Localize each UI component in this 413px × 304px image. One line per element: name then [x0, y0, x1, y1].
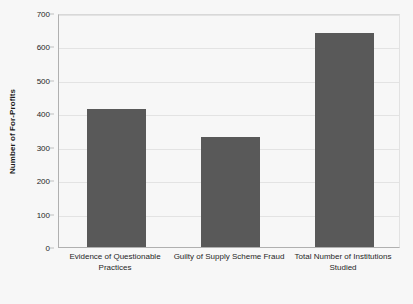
y-axis-tick-label: 500: [37, 76, 50, 85]
y-axis-title-text: Number of For-Profits: [9, 88, 18, 173]
y-axis-tick-mark: [50, 14, 54, 15]
y-axis-tick-label: 400: [37, 110, 50, 119]
y-axis-tick-mark: [50, 248, 54, 249]
bar: [87, 109, 146, 247]
x-axis-category-label: Guilty of Supply Scheme Fraud: [172, 251, 286, 262]
y-axis-tick-mark: [50, 47, 54, 48]
y-axis-tick-label: 300: [37, 143, 50, 152]
x-axis-category-label: Evidence of Questionable Practices: [58, 251, 172, 273]
bar-chart: Number of For-Profits 010020030040050060…: [0, 0, 413, 304]
y-axis-tick-label: 700: [37, 10, 50, 19]
y-axis-tick-mark: [50, 181, 54, 182]
y-axis-tick-mark: [50, 214, 54, 215]
plot-area: [58, 14, 400, 248]
y-axis-tick-labels: 0100200300400500600700: [26, 0, 54, 262]
y-axis-tick-mark: [50, 80, 54, 81]
bars-group: [59, 15, 399, 247]
y-axis-tick-mark: [50, 147, 54, 148]
bar: [201, 137, 260, 247]
y-axis-title: Number of For-Profits: [0, 0, 26, 262]
y-axis-tick-mark: [50, 114, 54, 115]
y-axis-tick-label: 100: [37, 210, 50, 219]
bar: [315, 33, 374, 247]
y-axis-tick-label: 200: [37, 177, 50, 186]
y-axis-tick-label: 600: [37, 43, 50, 52]
x-axis-category-label: Total Number of Institutions Studied: [286, 251, 400, 273]
x-axis-category-labels: Evidence of Questionable PracticesGuilty…: [58, 251, 400, 299]
